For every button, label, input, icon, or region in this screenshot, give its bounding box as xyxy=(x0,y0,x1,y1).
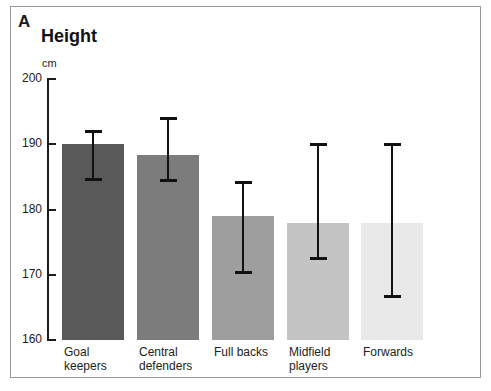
y-axis-tick-160 xyxy=(47,339,56,341)
y-axis-tick-label-170: 170 xyxy=(12,267,42,281)
error-bar-cap-5-lower xyxy=(384,295,401,298)
x-axis-category-label-4: Midfield players xyxy=(289,345,330,373)
x-axis-category-label-5: Forwards xyxy=(363,345,413,359)
error-bar-line-2 xyxy=(167,118,169,180)
x-axis-category-label-3: Full backs xyxy=(214,345,268,359)
x-axis-category-label-1: Goal keepers xyxy=(64,345,107,373)
y-axis-tick-label-180: 180 xyxy=(12,202,42,216)
error-bar-cap-2-lower xyxy=(160,179,177,182)
error-bar-line-5 xyxy=(391,144,393,295)
y-axis-tick-label-200: 200 xyxy=(12,71,42,85)
y-axis-tick-label-190: 190 xyxy=(12,136,42,150)
y-axis-tick-190 xyxy=(47,143,56,145)
y-axis-tick-200 xyxy=(47,78,56,80)
y-axis-tick-180 xyxy=(47,209,56,211)
y-axis-tick-label-160: 160 xyxy=(12,332,42,346)
error-bar-line-1 xyxy=(92,131,94,179)
error-bar-line-4 xyxy=(317,144,319,258)
error-bar-cap-5-upper xyxy=(384,143,401,146)
error-bar-cap-1-upper xyxy=(85,130,102,133)
error-bar-cap-2-upper xyxy=(160,117,177,120)
error-bar-cap-3-lower xyxy=(235,271,252,274)
x-axis-category-label-2: Central defenders xyxy=(139,345,192,373)
error-bar-cap-3-upper xyxy=(235,181,252,184)
error-bar-cap-1-lower xyxy=(85,178,102,181)
bar-2 xyxy=(137,155,199,340)
plot-area: 200190180170160 Goal keepersCentral defe… xyxy=(0,0,491,391)
error-bar-cap-4-lower xyxy=(310,257,327,260)
error-bar-cap-4-upper xyxy=(310,143,327,146)
error-bar-line-3 xyxy=(242,182,244,272)
y-axis-tick-170 xyxy=(47,274,56,276)
figure-panel: A Height cm 200190180170160 Goal keepers… xyxy=(0,0,491,391)
